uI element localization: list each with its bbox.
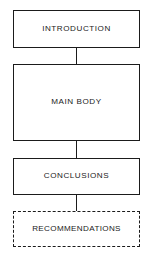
- node-recommendations-label: RECOMMENDATIONS: [32, 225, 121, 233]
- connector-introduction-to-main-body: [76, 48, 78, 64]
- node-conclusions-label: CONCLUSIONS: [44, 172, 109, 180]
- node-introduction-label: INTRODUCTION: [42, 25, 111, 33]
- node-main-body[interactable]: MAIN BODY: [13, 64, 140, 141]
- connector-main-body-to-conclusions: [76, 141, 78, 158]
- node-conclusions[interactable]: CONCLUSIONS: [13, 158, 140, 195]
- flow-diagram: INTRODUCTION MAIN BODY CONCLUSIONS RECOM…: [0, 0, 152, 263]
- node-main-body-label: MAIN BODY: [51, 98, 101, 106]
- connector-conclusions-to-recommendations: [76, 195, 78, 211]
- node-introduction[interactable]: INTRODUCTION: [13, 10, 140, 48]
- node-recommendations[interactable]: RECOMMENDATIONS: [13, 211, 140, 247]
